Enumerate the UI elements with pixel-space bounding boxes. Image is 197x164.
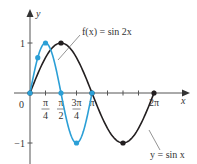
y-axis-label: y bbox=[35, 8, 41, 19]
sin-2x-point bbox=[43, 40, 48, 45]
x-axis-label: x bbox=[180, 95, 186, 106]
sin-x-point bbox=[120, 140, 125, 145]
sin-2x-point bbox=[35, 55, 40, 60]
x-tick-label-numerator: π bbox=[43, 97, 48, 108]
chart: x y 0 π4π23π4π2π1−1 f(x) = sin 2x y = si… bbox=[0, 0, 197, 164]
y-tick-label: 1 bbox=[20, 38, 25, 49]
y-tick-label: −1 bbox=[14, 138, 25, 149]
fx-leader-line bbox=[58, 35, 80, 60]
sin-2x-point bbox=[74, 140, 79, 145]
sin-x-point bbox=[58, 40, 63, 45]
sin-2x-point bbox=[89, 90, 94, 95]
origin-label: 0 bbox=[19, 99, 24, 110]
x-tick-label-denominator: 4 bbox=[74, 110, 79, 121]
y-axis-arrow-icon bbox=[27, 9, 34, 17]
sin-2x-point bbox=[27, 90, 32, 95]
fx-label: f(x) = sin 2x bbox=[82, 26, 132, 38]
sin-leader-line bbox=[149, 130, 160, 150]
sin-2x-point bbox=[58, 90, 63, 95]
x-tick-label-denominator: 2 bbox=[59, 110, 64, 121]
x-tick-label-numerator: 3π bbox=[71, 97, 81, 108]
sin-label: y = sin x bbox=[150, 149, 185, 160]
x-tick-label-denominator: 4 bbox=[43, 110, 48, 121]
sin-x-point bbox=[151, 90, 156, 95]
